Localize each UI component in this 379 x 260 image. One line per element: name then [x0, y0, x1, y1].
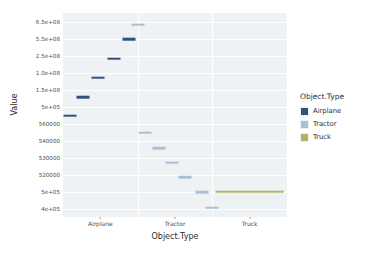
gridline-horizontal	[63, 22, 287, 23]
gridline-horizontal	[63, 56, 287, 57]
x-tick-label: Tractor	[165, 220, 186, 227]
legend-label: Tractor	[313, 120, 336, 128]
gridline-vertical	[212, 13, 213, 217]
legend: Object.Type AirplaneTractorTruck	[300, 92, 344, 144]
gridline-horizontal	[63, 107, 287, 108]
legend-entries: AirplaneTractorTruck	[300, 105, 344, 143]
data-point	[152, 147, 165, 150]
data-point	[139, 132, 152, 135]
legend-title: Object.Type	[300, 92, 344, 101]
x-tick-mark	[100, 217, 101, 219]
legend-key	[300, 107, 309, 116]
legend-item[interactable]: Airplane	[300, 105, 344, 117]
gridline-horizontal	[63, 90, 287, 91]
data-point	[77, 96, 90, 99]
y-tick-label: 540000	[39, 138, 60, 144]
legend-label: Airplane	[313, 107, 341, 115]
x-tick-mark	[175, 217, 176, 219]
x-axis-title: Object.Type	[63, 232, 287, 241]
x-tick-mark	[249, 217, 250, 219]
y-tick-label: 2.5e+08	[36, 53, 60, 59]
data-point	[107, 58, 120, 61]
y-tick-label: 1.0e+08	[36, 70, 60, 76]
legend-key	[300, 120, 309, 129]
legend-item[interactable]: Tractor	[300, 118, 344, 130]
data-point	[206, 206, 219, 209]
legend-item[interactable]: Truck	[300, 131, 344, 143]
data-point	[63, 115, 76, 118]
gridline-horizontal	[63, 124, 287, 125]
gridline-horizontal	[63, 39, 287, 40]
y-tick-label: 530000	[39, 155, 60, 161]
legend-swatch	[301, 121, 308, 128]
y-tick-label: 520000	[39, 172, 60, 178]
strip-plot-chart: Value 6.5e+085.5e+082.5e+081.0e+081.5e+0…	[0, 0, 379, 260]
x-tick-label: Airplane	[88, 220, 113, 227]
y-tick-label: 5e+05	[41, 189, 60, 195]
y-tick-label: 4e+05	[41, 206, 60, 212]
data-point	[179, 176, 192, 179]
data-point	[92, 76, 105, 79]
legend-label: Truck	[313, 133, 331, 141]
gridline-horizontal	[63, 209, 287, 210]
plot-panel	[63, 13, 287, 217]
gridline-horizontal	[63, 158, 287, 159]
legend-swatch	[301, 134, 308, 141]
x-tick-label: Truck	[242, 220, 258, 227]
y-tick-label: 6.5e+08	[36, 19, 60, 25]
y-tick-label: 1.5e+08	[36, 87, 60, 93]
gridline-horizontal	[63, 141, 287, 142]
gridline-horizontal	[63, 73, 287, 74]
y-axis-ticks: 6.5e+085.5e+082.5e+081.0e+081.5e+085e+05…	[14, 0, 60, 260]
legend-key	[300, 133, 309, 142]
legend-swatch	[301, 108, 308, 115]
data-point	[166, 161, 179, 164]
data-point	[215, 190, 284, 193]
data-point	[122, 38, 135, 41]
data-point	[131, 23, 144, 26]
gridline-vertical	[138, 13, 139, 217]
gridline-horizontal	[63, 175, 287, 176]
y-tick-label: 5.5e+08	[36, 36, 60, 42]
y-tick-label: 560000	[39, 121, 60, 127]
y-tick-label: 5e+05	[41, 104, 60, 110]
data-point	[195, 191, 208, 194]
